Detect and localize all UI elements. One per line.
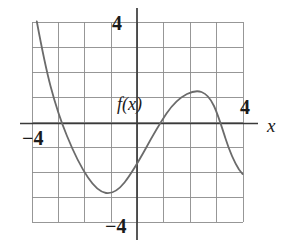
coordinate-plane xyxy=(0,0,293,247)
x-axis-name-label: x xyxy=(267,116,275,135)
axes xyxy=(20,8,258,240)
y-axis-tick-label-positive-4: 4 xyxy=(112,13,122,33)
x-axis-tick-label-positive-4: 4 xyxy=(240,97,250,117)
function-name-label: f(x) xyxy=(117,95,142,113)
x-axis-tick-label-negative-4: −4 xyxy=(22,128,43,148)
graph-figure: 4 −4 4 −4 x f(x) xyxy=(0,0,293,247)
y-axis-tick-label-negative-4: −4 xyxy=(105,216,126,236)
